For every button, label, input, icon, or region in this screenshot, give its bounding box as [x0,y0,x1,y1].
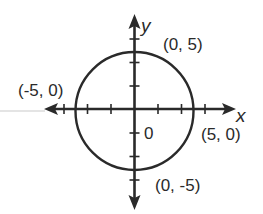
y-axis [129,14,141,210]
point-label-bottom: (0, -5) [155,176,200,195]
y-axis-label: y [139,15,152,36]
coordinate-plane-figure: y x 0 (0, 5) (-5, 0) (5, 0) (0, -5) [0,0,263,214]
x-axis [44,103,236,115]
point-label-right: (5, 0) [201,125,241,144]
point-label-left: (-5, 0) [18,81,63,100]
point-label-top: (0, 5) [163,35,203,54]
origin-label: 0 [144,124,153,143]
x-axis-label: x [235,105,247,126]
